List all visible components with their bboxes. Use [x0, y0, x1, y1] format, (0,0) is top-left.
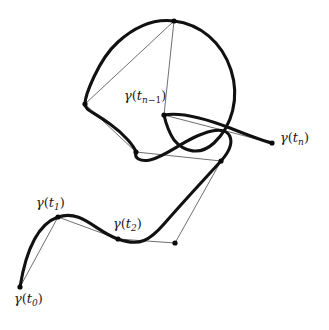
- node-t0: [17, 284, 22, 289]
- node-t1: [55, 214, 60, 219]
- label-gamma-tn-minus-1: γ(tn−1): [124, 89, 166, 102]
- node-7: [171, 18, 176, 23]
- paren-close-t0: ): [38, 291, 43, 306]
- subscript-t0: 0: [32, 298, 38, 308]
- chord-polyline-group: [20, 21, 272, 287]
- chord-polyline: [20, 21, 272, 287]
- label-gamma-t2: γ(t2): [113, 217, 142, 230]
- subscript-tn: n: [298, 137, 304, 147]
- label-gamma-t1: γ(t1): [36, 196, 65, 209]
- gamma-symbol-tnm1: γ: [124, 88, 132, 103]
- subscript-t2: 2: [131, 223, 137, 233]
- node-3: [172, 240, 177, 245]
- node-tnm1: [161, 112, 166, 117]
- label-gamma-tn: γ(tn): [280, 131, 309, 144]
- paren-close-t1: ): [60, 195, 65, 210]
- curve-group: [20, 21, 272, 287]
- curve-approximation-figure: γ(t0) γ(t1) γ(t2) γ(tn−1) γ(tn): [0, 0, 329, 330]
- paren-close-tnm1: ): [161, 88, 166, 103]
- paren-close-t2: ): [137, 216, 142, 231]
- curve-diagram-canvas: [0, 0, 329, 330]
- node-6: [82, 101, 87, 106]
- node-5: [133, 149, 138, 154]
- gamma-symbol-t0: γ: [14, 291, 22, 306]
- subscript-t1: 1: [54, 202, 60, 212]
- gamma-symbol-t1: γ: [36, 195, 44, 210]
- node-4: [218, 158, 223, 163]
- subscript-one: 1: [155, 95, 161, 105]
- sample-point-group: [17, 18, 274, 289]
- gamma-curve: [20, 21, 272, 287]
- node-tn: [269, 140, 274, 145]
- gamma-symbol-t2: γ: [113, 216, 121, 231]
- node-t2: [115, 236, 120, 241]
- gamma-symbol-tn: γ: [280, 130, 288, 145]
- paren-close-tn: ): [304, 130, 309, 145]
- label-gamma-t0: γ(t0): [14, 292, 43, 305]
- subscript-tnm1: n−1: [142, 95, 161, 105]
